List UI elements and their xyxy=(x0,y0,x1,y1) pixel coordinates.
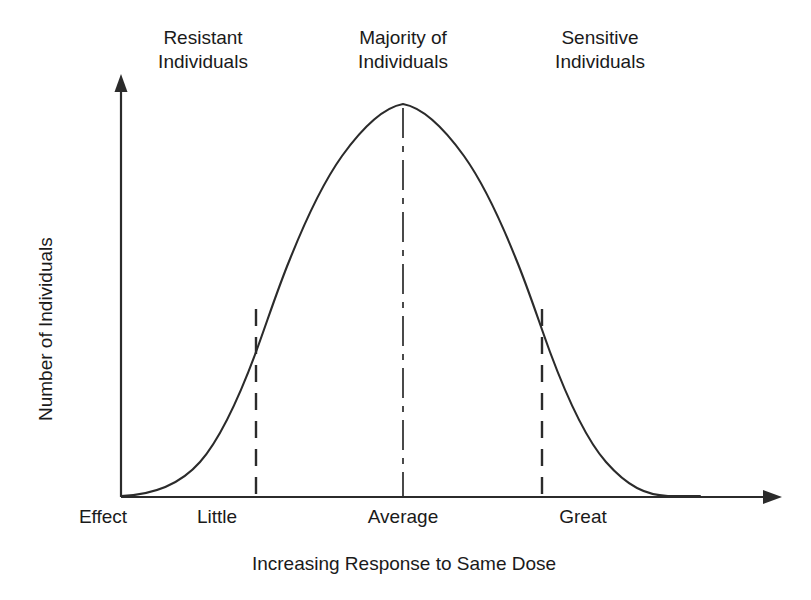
y-axis xyxy=(115,74,128,497)
y-axis-arrowhead xyxy=(115,74,128,92)
region-label-resistant-line2: Individuals xyxy=(158,50,248,74)
x-tick-label-great: Great xyxy=(559,505,607,529)
x-tick-label-average: Average xyxy=(368,505,438,529)
region-label-majority: Majority of Individuals xyxy=(358,26,448,75)
y-axis-title: Number of Individuals xyxy=(34,237,58,421)
region-label-resistant-line1: Resistant xyxy=(158,26,248,50)
region-label-sensitive-line2: Individuals xyxy=(555,50,645,74)
x-tick-label-effect: Effect xyxy=(79,505,127,529)
figure-canvas: Resistant Individuals Majority of Indivi… xyxy=(0,0,811,600)
region-label-sensitive-line1: Sensitive xyxy=(555,26,645,50)
region-label-majority-line1: Majority of xyxy=(358,26,448,50)
x-tick-label-little: Little xyxy=(197,505,237,529)
x-axis-arrowhead xyxy=(763,490,782,504)
distribution-curve xyxy=(121,104,700,496)
x-axis-title: Increasing Response to Same Dose xyxy=(252,552,556,576)
region-label-resistant: Resistant Individuals xyxy=(158,26,248,75)
region-label-majority-line2: Individuals xyxy=(358,50,448,74)
region-label-sensitive: Sensitive Individuals xyxy=(555,26,645,75)
